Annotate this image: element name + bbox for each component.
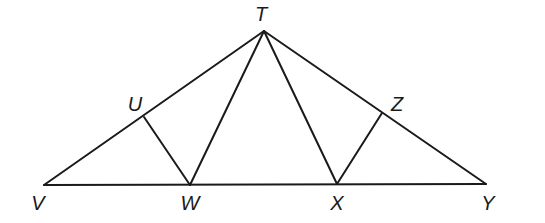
segment-ZX (337, 113, 382, 184)
geometry-diagram: T U V W X Y Z (0, 0, 545, 223)
segment-TX (264, 31, 337, 184)
label-Z: Z (390, 93, 404, 115)
label-V: V (31, 192, 46, 214)
label-X: X (329, 192, 344, 214)
segment-UW (144, 117, 190, 185)
label-U: U (128, 93, 143, 115)
labels-group: T U V W X Y Z (31, 3, 496, 214)
label-Y: Y (481, 192, 496, 214)
segment-VY (44, 184, 486, 185)
label-T: T (255, 3, 269, 25)
segment-TW (190, 31, 264, 185)
label-W: W (181, 192, 202, 214)
segments-group (44, 31, 486, 185)
segment-TV (44, 31, 264, 185)
segment-TY (264, 31, 486, 184)
